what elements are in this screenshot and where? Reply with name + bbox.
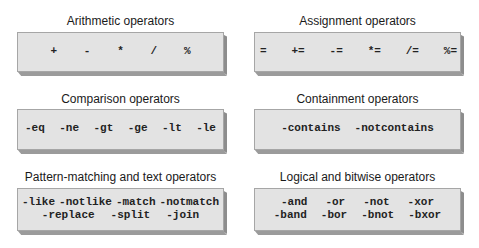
group-title: Assignment operators (254, 14, 461, 28)
operator-plus: + (50, 45, 57, 57)
operator-row: -and -or -not -xor (254, 196, 461, 208)
operator-gt: -gt (93, 122, 113, 134)
operator-row: -eq -ne -gt -ge -lt -le (17, 122, 224, 134)
operator-minus: - (84, 45, 91, 57)
group-title: Comparison operators (17, 92, 224, 106)
operator-notcontains: -notcontains (355, 122, 434, 134)
operator-not: -not (363, 196, 389, 208)
operator-add-assign: += (291, 45, 304, 57)
operator-divide: / (151, 45, 158, 57)
operator-contains: -contains (281, 122, 340, 134)
operator-ge: -ge (128, 122, 148, 134)
operator-like: -like (22, 196, 55, 208)
operator-modulus-assign: %= (444, 45, 457, 57)
operator-box: -like -notlike -match -notmatch -replace… (17, 188, 229, 236)
operator-ne: -ne (59, 122, 79, 134)
operator-bor: -bor (321, 209, 347, 221)
operator-notmatch: -notmatch (160, 196, 219, 208)
operator-eq: -eq (25, 122, 45, 134)
group-assignment-operators: Assignment operators = += -= *= /= %= (254, 14, 466, 78)
operator-replace: -replace (42, 209, 95, 221)
group-arithmetic-operators: Arithmetic operators + - * / % (17, 14, 229, 78)
group-title: Pattern-matching and text operators (17, 170, 224, 184)
operator-modulus: % (184, 45, 191, 57)
group-containment-operators: Containment operators -contains -notcont… (254, 92, 466, 156)
operator-bxor: -bxor (408, 209, 441, 221)
operator-row: -replace -split -join (17, 209, 224, 221)
operator-or: -or (325, 196, 345, 208)
operator-le: -le (196, 122, 216, 134)
operator-row: + - * / % (17, 45, 224, 57)
operator-multiply-assign: *= (368, 45, 381, 57)
operator-assign: = (260, 45, 267, 57)
group-title: Arithmetic operators (17, 14, 224, 28)
group-title: Logical and bitwise operators (254, 170, 461, 184)
operator-box: -eq -ne -gt -ge -lt -le (17, 109, 229, 155)
group-title: Containment operators (254, 92, 461, 106)
operator-lt: -lt (162, 122, 182, 134)
operator-box: -and -or -not -xor -band -bor -bnot -bxo… (254, 188, 466, 236)
operator-multiply: * (117, 45, 124, 57)
operator-row: -contains -notcontains (254, 122, 461, 134)
operator-and: -and (281, 196, 307, 208)
group-pattern-matching-operators: Pattern-matching and text operators -lik… (17, 170, 229, 238)
operator-xor: -xor (408, 196, 434, 208)
operator-divide-assign: /= (406, 45, 419, 57)
operator-split: -split (111, 209, 151, 221)
operator-box: + - * / % (17, 32, 229, 77)
operator-band: -band (274, 209, 307, 221)
operator-match: -match (116, 196, 156, 208)
operator-row: -like -notlike -match -notmatch (17, 196, 224, 208)
operator-join: -join (166, 209, 199, 221)
operator-bnot: -bnot (361, 209, 394, 221)
operator-subtract-assign: -= (330, 45, 343, 57)
group-logical-bitwise-operators: Logical and bitwise operators -and -or -… (254, 170, 466, 238)
operator-notlike: -notlike (59, 196, 112, 208)
operator-box: -contains -notcontains (254, 109, 466, 155)
operator-row: = += -= *= /= %= (254, 45, 461, 57)
operator-row: -band -bor -bnot -bxor (254, 209, 461, 221)
operator-box: = += -= *= /= %= (254, 32, 466, 77)
group-comparison-operators: Comparison operators -eq -ne -gt -ge -lt… (17, 92, 229, 156)
